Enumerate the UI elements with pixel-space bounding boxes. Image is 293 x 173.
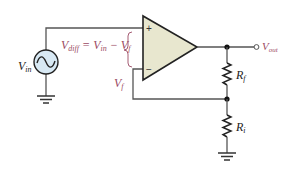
vf-label: Vf — [114, 76, 125, 91]
ground-icon-source — [37, 96, 55, 103]
vdiff-equation-label: Vdiff = Vin − Vf — [61, 38, 132, 53]
minus-input-sign: − — [146, 64, 152, 75]
output-terminal-icon — [254, 45, 259, 50]
ri-label: Ri — [235, 120, 246, 135]
ground-icon-ri — [218, 153, 236, 160]
rf-label: Rf — [235, 68, 247, 83]
ri-resistor-icon — [223, 115, 231, 137]
rf-resistor-icon — [223, 63, 231, 85]
plus-input-sign: + — [146, 23, 152, 34]
op-amp-circuit-diagram: Vin Vdiff = Vin − Vf Vf + − Vout Rf Ri — [0, 0, 293, 173]
ac-source-icon — [34, 50, 58, 74]
vout-label: Vout — [262, 40, 279, 54]
vin-label: Vin — [18, 59, 32, 74]
